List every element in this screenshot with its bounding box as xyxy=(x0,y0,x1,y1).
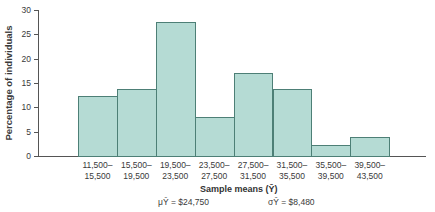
y-tick-label: 30 xyxy=(14,5,31,15)
histogram-bar xyxy=(350,137,390,157)
y-tick xyxy=(34,83,38,84)
histogram-bar xyxy=(273,89,313,157)
y-tick-label: 25 xyxy=(14,29,31,39)
y-tick xyxy=(34,107,38,108)
histogram-bar xyxy=(117,89,157,157)
y-tick-label: 20 xyxy=(14,54,31,64)
histogram-bar xyxy=(78,96,118,157)
histogram-bar xyxy=(156,22,196,157)
x-category-label: 35,500–39,500 xyxy=(309,160,353,182)
x-axis-label: Sample means (Ȳ) xyxy=(200,184,278,194)
x-category-label: 39,500–43,500 xyxy=(348,160,392,182)
y-tick-label: 15 xyxy=(14,78,31,88)
mean-annotation: μȲ = $24,750 xyxy=(158,197,209,207)
y-tick xyxy=(34,132,38,133)
y-axis-line xyxy=(38,10,39,157)
x-category-label: 31,500–35,500 xyxy=(270,160,314,182)
y-tick xyxy=(34,10,38,11)
y-tick xyxy=(34,34,38,35)
histogram-bar xyxy=(311,145,351,157)
y-tick-label: 10 xyxy=(14,102,31,112)
x-category-label: 15,500–19,500 xyxy=(114,160,158,182)
histogram-bar xyxy=(195,117,235,157)
y-tick-label: 0 xyxy=(14,151,31,161)
x-category-label: 27,500–31,500 xyxy=(231,160,275,182)
y-tick xyxy=(34,156,38,157)
sd-annotation: σȲ = $8,480 xyxy=(268,197,315,207)
y-tick-label: 5 xyxy=(14,127,31,137)
y-tick xyxy=(34,59,38,60)
x-category-label: 11,500–15,500 xyxy=(75,160,119,182)
histogram-bar xyxy=(234,73,274,157)
x-category-label: 19,500–23,500 xyxy=(153,160,197,182)
x-category-label: 23,500–27,500 xyxy=(192,160,236,182)
